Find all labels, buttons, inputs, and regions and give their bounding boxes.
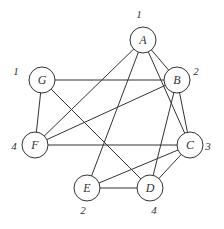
node-label: F — [30, 138, 39, 152]
node-d: D4 — [137, 175, 163, 216]
node-label: C — [186, 138, 195, 152]
node-label: D — [145, 181, 155, 195]
node-label: A — [138, 33, 147, 47]
nodes: A1B2C3D4E2F4G1 — [11, 8, 211, 216]
node-weight: 1 — [13, 65, 19, 77]
node-b: B2 — [164, 65, 199, 93]
edge-a-f — [35, 40, 143, 145]
node-label: E — [82, 181, 91, 195]
node-c: C3 — [177, 132, 211, 158]
node-weight: 2 — [193, 65, 199, 77]
node-label: G — [38, 73, 47, 87]
node-weight: 3 — [204, 140, 211, 152]
edge-a-e — [87, 40, 143, 188]
node-e: E2 — [74, 175, 100, 216]
node-f: F4 — [11, 132, 48, 158]
node-weight: 1 — [136, 8, 142, 20]
node-g: G1 — [13, 65, 55, 93]
graph-diagram: A1B2C3D4E2F4G1 — [0, 0, 224, 229]
node-weight: 4 — [151, 204, 157, 216]
edge-b-d — [150, 80, 177, 188]
node-weight: 2 — [80, 204, 86, 216]
node-weight: 4 — [11, 140, 17, 152]
edge-b-f — [35, 80, 177, 145]
edges — [35, 40, 190, 188]
node-a: A1 — [130, 8, 156, 53]
node-label: B — [173, 73, 181, 87]
